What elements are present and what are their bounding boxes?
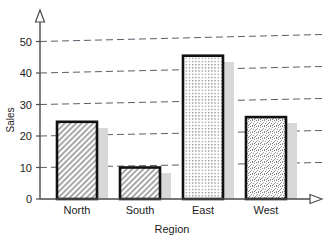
y-tick-label-20: 20 xyxy=(20,130,32,142)
y-tick-label-50: 50 xyxy=(20,36,32,48)
y-tick-label-10: 10 xyxy=(20,162,32,174)
y-tick-label-0: 0 xyxy=(26,193,32,205)
bar-chart-figure: 0 10 20 30 40 50 North South East West R… xyxy=(0,0,330,241)
bar-south[interactable] xyxy=(120,168,160,200)
y-axis-title: Sales xyxy=(5,107,16,132)
chart-canvas: 0 10 20 30 40 50 North South East West R… xyxy=(0,0,330,241)
y-tick-label-40: 40 xyxy=(20,67,32,79)
y-tick-label-30: 30 xyxy=(20,99,32,111)
bar-group-north[interactable] xyxy=(57,122,108,199)
x-tick-label-west: West xyxy=(254,204,279,216)
bar-group-east[interactable] xyxy=(183,56,234,199)
x-axis-title: Region xyxy=(155,223,190,235)
bar-group-west[interactable] xyxy=(246,117,297,199)
x-tick-label-east: East xyxy=(192,204,214,216)
x-tick-label-south: South xyxy=(126,204,155,216)
bar-north[interactable] xyxy=(57,122,97,199)
bar-west[interactable] xyxy=(246,117,286,199)
bar-east[interactable] xyxy=(183,56,223,199)
x-tick-label-north: North xyxy=(64,204,91,216)
